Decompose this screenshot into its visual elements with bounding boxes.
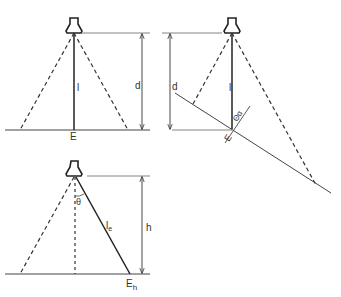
intensity-label: le — [106, 220, 112, 232]
height-label: h — [146, 222, 152, 233]
beam-edge-right — [74, 33, 128, 130]
intensity-ray — [76, 177, 130, 274]
angle-label: Θα — [231, 109, 245, 123]
angle-label: θ — [76, 197, 81, 207]
diagram-perpendicular: d l E — [5, 18, 150, 142]
illuminance-label: E — [222, 133, 234, 143]
illuminance-label: E — [70, 131, 77, 142]
angle-arc — [75, 194, 84, 196]
lamp-icon — [66, 161, 82, 176]
illuminance-label: Eh — [126, 278, 137, 292]
lamp-icon — [66, 18, 82, 33]
lighting-diagrams: d l E d Θα l E h θ le Eh — [0, 0, 341, 297]
beam-edge-right — [232, 33, 316, 185]
beam-edge-left — [20, 33, 74, 130]
intensity-label: l — [77, 82, 79, 93]
distance-label: d — [135, 80, 141, 91]
lamp-icon — [224, 18, 240, 33]
distance-label: d — [172, 81, 178, 92]
tilted-plane — [175, 93, 331, 193]
diagram-horizontal-illuminance: h θ le Eh — [5, 161, 152, 292]
beam-edge-left — [193, 33, 232, 104]
intensity-label: l — [229, 82, 231, 93]
beam-edge-left — [20, 177, 74, 274]
diagram-tilted-plane: d Θα l E — [162, 18, 331, 193]
